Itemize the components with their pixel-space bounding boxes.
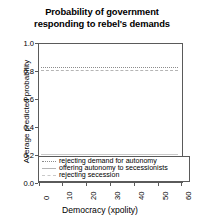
y-tick-label-5: 1.0 (12, 39, 34, 48)
x-axis-label: Democracy (xpolity) (10, 205, 190, 215)
x-tick-label-6: 60 (184, 192, 193, 200)
x-tick-mark-1 (62, 183, 63, 186)
y-tick-label-0: 0.0 (12, 179, 34, 188)
chart-title: Probability of government responding to … (14, 6, 190, 29)
x-tick-mark-5 (158, 183, 159, 186)
x-tick-label-3: 30 (113, 192, 122, 200)
series-line-rejecting-demand-for-autonomy (41, 67, 178, 68)
x-tick-mark-2 (86, 183, 87, 186)
legend-swatch-dotted-icon (42, 161, 56, 162)
x-tick-label-4: 40 (137, 192, 146, 200)
chart-figure: Probability of government responding to … (0, 0, 197, 222)
legend-swatch-dashed-icon (42, 168, 56, 169)
y-axis-label: Average predicted probability (22, 37, 31, 187)
chart-title-line-2: responding to rebel's demands (14, 18, 190, 30)
legend-label-2: rejecting secession (59, 172, 119, 179)
legend-swatch-solid-icon (42, 175, 56, 176)
y-tick-label-4: 0.8 (12, 67, 34, 76)
series-line-offering-autonomy-to-secessionists (41, 70, 178, 71)
chart-title-line-1: Probability of government (14, 6, 190, 18)
x-tick-label-1: 10 (65, 192, 74, 200)
x-tick-mark-4 (134, 183, 135, 186)
x-tick-label-5: 50 (161, 192, 170, 200)
x-tick-label-2: 20 (89, 192, 98, 200)
x-tick-label-0: 0 (42, 196, 51, 200)
y-tick-label-1: 0.2 (12, 151, 34, 160)
y-tick-label-2: 0.4 (12, 123, 34, 132)
x-tick-mark-0 (39, 183, 40, 186)
x-tick-mark-3 (110, 183, 111, 186)
x-tick-mark-6 (181, 183, 182, 186)
y-tick-mark-0 (35, 183, 38, 184)
y-tick-label-3: 0.6 (12, 95, 34, 104)
chart-legend: rejecting demand for autonomy offering a… (38, 156, 190, 182)
legend-item-rejecting-secession[interactable]: rejecting secession (41, 172, 187, 179)
